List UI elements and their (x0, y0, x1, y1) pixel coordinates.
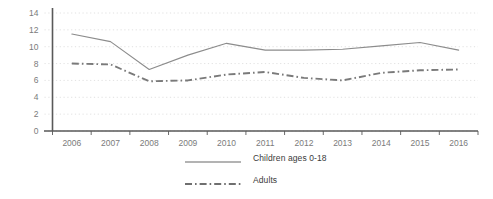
legend-label-children: Children ages 0-18 (253, 153, 327, 163)
chart-legend: Children ages 0-18 Adults (0, 146, 493, 199)
chart-svg: 02468101214 2006200720082009201020112012… (0, 0, 493, 150)
x-axis (44, 131, 478, 135)
y-tick-label: 8 (34, 59, 39, 69)
legend-swatch-solid-icon (185, 153, 241, 163)
legend-swatch-dashdot-icon (185, 175, 241, 185)
legend-label-adults: Adults (253, 175, 277, 185)
y-tick-label: 14 (29, 8, 39, 18)
y-tick-label: 4 (34, 92, 39, 102)
y-tick-label: 6 (34, 75, 39, 85)
y-tick-label: 12 (29, 25, 39, 35)
series-children-ages-0-18 (72, 34, 459, 69)
plot-area: 02468101214 2006200720082009201020112012… (0, 0, 493, 150)
y-tick-label: 0 (34, 126, 39, 136)
y-tick-labels: 02468101214 (29, 8, 39, 136)
line-chart: 02468101214 2006200720082009201020112012… (0, 0, 493, 199)
y-tick-label: 10 (29, 42, 39, 52)
series-adults (72, 64, 459, 82)
y-tick-label: 2 (34, 109, 39, 119)
legend-item-children: Children ages 0-18 (185, 150, 327, 166)
legend-item-adults: Adults (185, 172, 277, 188)
